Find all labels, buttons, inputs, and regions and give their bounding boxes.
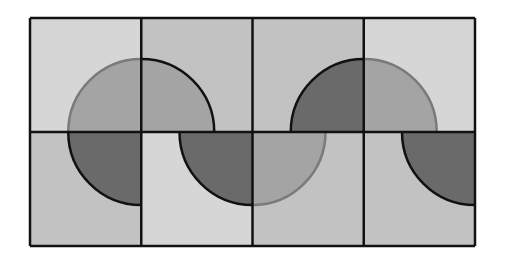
tile-pattern-figure bbox=[0, 0, 515, 261]
